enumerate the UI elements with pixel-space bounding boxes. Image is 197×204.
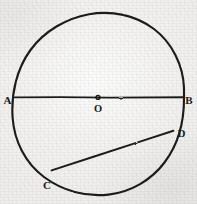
- geometry-figure: A B O C D: [0, 0, 197, 204]
- label-c: C: [43, 179, 51, 191]
- label-b: B: [185, 94, 193, 106]
- label-d: D: [178, 127, 186, 139]
- diameter-line-ab: [13, 97, 184, 98]
- chord-line-cd: [52, 131, 174, 171]
- label-a: A: [4, 94, 12, 106]
- label-o: O: [94, 103, 102, 114]
- circle-diagram-canvas: A B O C D: [0, 0, 197, 204]
